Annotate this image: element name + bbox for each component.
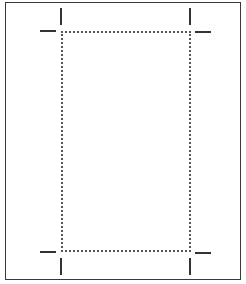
crop-mark-top-right-horizontal [195,31,211,33]
crop-mark-bottom-left-horizontal [40,251,56,253]
crop-mark-top-right-vertical [189,8,191,25]
crop-mark-top-left-horizontal [40,30,56,32]
crop-mark-top-left-vertical [60,8,62,25]
crop-mark-bottom-right-vertical [189,258,191,275]
crop-mark-bottom-right-horizontal [195,252,211,254]
crop-mark-bottom-left-vertical [60,258,62,275]
trim-area [61,31,191,252]
